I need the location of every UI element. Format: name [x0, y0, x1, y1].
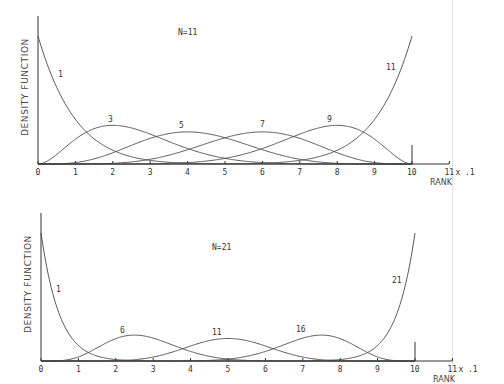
- curve-label-1: 1: [56, 285, 61, 294]
- curve-label-7: 7: [260, 120, 265, 129]
- density-curve-rank-11: [38, 36, 412, 164]
- density-curve-rank-9: [38, 125, 412, 164]
- x-tick-label: 1: [73, 168, 78, 177]
- chart-n21: 01234567891011x .1RANKDENSITY FUNCTIONN=…: [23, 213, 478, 384]
- curve-label-1: 1: [58, 70, 63, 79]
- order-statistic-density-plots: 01234567891011x .1RANKDENSITY FUNCTIONN=…: [0, 0, 504, 384]
- chart-n11: 01234567891011x .1RANKDENSITY FUNCTIONN=…: [20, 16, 475, 187]
- density-curve-rank-1: [38, 36, 412, 164]
- x-tick-label: 7: [297, 168, 302, 177]
- x-tick-label: 10: [407, 168, 417, 177]
- curve-label-21: 21: [392, 276, 402, 285]
- curve-label-11: 11: [212, 328, 222, 337]
- x-tick-label: 3: [148, 168, 153, 177]
- x-tick-label: 8: [338, 365, 343, 374]
- curve-label-3: 3: [108, 115, 113, 124]
- density-curve-rank-21: [41, 233, 415, 361]
- x-tick-label: 2: [110, 168, 115, 177]
- x-tick-label: 0: [39, 365, 44, 374]
- x-tick-label: 6: [260, 168, 265, 177]
- x-tick-label: 5: [223, 168, 228, 177]
- x-tick-label: 9: [375, 365, 380, 374]
- x-tick-label: 5: [226, 365, 231, 374]
- x-tick-label: 6: [263, 365, 268, 374]
- chart-title: N=21: [212, 243, 231, 252]
- x-tick-label: 4: [185, 168, 190, 177]
- x-tick-label: 11: [447, 365, 457, 374]
- x-tick-label: 3: [151, 365, 156, 374]
- x-tick-label: 1: [76, 365, 81, 374]
- curve-label-6: 6: [120, 326, 125, 335]
- x-tick-label: 8: [335, 168, 340, 177]
- x-tick-label: 11: [444, 168, 454, 177]
- x-tick-label: 2: [113, 365, 118, 374]
- curve-label-16: 16: [296, 325, 306, 334]
- x-tick-label: 4: [188, 365, 193, 374]
- density-curve-rank-11: [41, 338, 415, 361]
- curve-label-11: 11: [386, 63, 396, 72]
- x-multiplier-label: x .1: [455, 168, 474, 177]
- chart-title: N=11: [178, 28, 197, 37]
- x-axis-title: RANK: [430, 178, 453, 187]
- x-tick-label: 9: [372, 168, 377, 177]
- x-axis-title: RANK: [433, 375, 456, 384]
- density-curve-rank-1: [41, 233, 415, 361]
- x-multiplier-label: x .1: [458, 365, 477, 374]
- y-axis-title: DENSITY FUNCTION: [23, 235, 33, 333]
- x-tick-label: 10: [410, 365, 420, 374]
- x-tick-label: 0: [36, 168, 41, 177]
- curve-label-5: 5: [179, 121, 184, 130]
- curve-label-9: 9: [327, 115, 332, 124]
- y-axis-title: DENSITY FUNCTION: [20, 38, 30, 136]
- x-tick-label: 7: [300, 365, 305, 374]
